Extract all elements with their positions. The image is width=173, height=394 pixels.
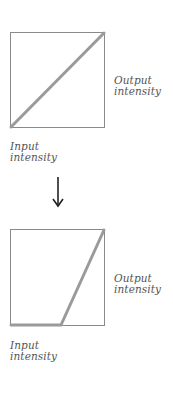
input-intensity-label: Input intensity (10, 340, 57, 361)
output-intensity-label: Output intensity (114, 273, 161, 294)
bottom-panel: Output intensity Input intensity (0, 0, 173, 394)
threshold-curve (11, 230, 104, 325)
plot-frame (11, 230, 105, 326)
threshold-curve-plot (0, 0, 173, 394)
